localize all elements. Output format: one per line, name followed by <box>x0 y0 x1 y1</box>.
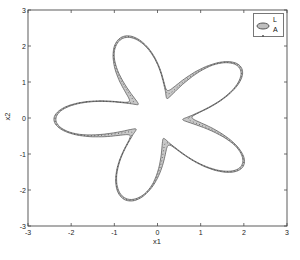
figure: -3-2-10123-3-2-10123 x1 x2 L A <box>0 0 300 260</box>
x-tick-label: -3 <box>25 229 31 236</box>
region-L-band <box>54 36 245 201</box>
x-tick-label: 0 <box>156 229 160 236</box>
legend-item-A: A <box>256 25 281 35</box>
region-L-inner-edge <box>56 37 243 199</box>
y-axis-label: x2 <box>3 107 12 127</box>
legend-label-L: L <box>273 16 277 24</box>
plot-border <box>28 10 287 226</box>
y-tick-label: 2 <box>22 43 26 50</box>
x-tick-label: 3 <box>285 229 289 236</box>
curve-A-dotted <box>55 37 244 201</box>
x-tick-label: -1 <box>111 229 117 236</box>
region-ellipse-icon <box>256 16 271 24</box>
y-tick-label: -1 <box>20 151 26 158</box>
x-tick-label: 1 <box>199 229 203 236</box>
plot-canvas: -3-2-10123-3-2-10123 <box>0 0 300 260</box>
x-axis-label: x1 <box>153 237 161 246</box>
legend-item-L: L <box>256 15 281 25</box>
y-tick-label: 1 <box>22 79 26 86</box>
x-tick-label: -2 <box>68 229 74 236</box>
y-tick-label: 0 <box>22 115 26 122</box>
dot-marker-icon <box>256 26 271 34</box>
y-tick-label: -2 <box>20 187 26 194</box>
x-tick-label: 2 <box>242 229 246 236</box>
legend: L A <box>253 13 284 37</box>
y-tick-label: 3 <box>22 7 26 14</box>
region-L-outer-edge <box>54 36 245 201</box>
y-tick-label: -3 <box>20 223 26 230</box>
legend-label-A: A <box>273 26 278 34</box>
